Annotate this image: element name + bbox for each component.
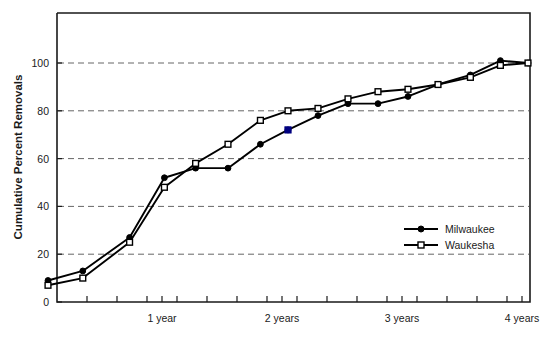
data-point[interactable] (525, 60, 531, 66)
y-tick-label: 0 (43, 296, 49, 308)
line-chart: 020406080100 1 year2 years3 years4 years… (0, 0, 554, 341)
x-tick-label: 2 years (265, 312, 299, 324)
data-point[interactable] (127, 239, 133, 245)
data-point[interactable] (498, 62, 504, 68)
data-point[interactable] (375, 89, 381, 95)
data-point[interactable] (80, 268, 86, 274)
legend-label: Waukesha (445, 239, 494, 251)
legend-marker (418, 242, 424, 248)
x-tick-label: 1 year (147, 312, 177, 324)
data-point[interactable] (405, 86, 411, 92)
data-point[interactable] (225, 165, 231, 171)
data-point[interactable] (162, 184, 168, 190)
data-point[interactable] (375, 101, 381, 107)
y-tick-label: 60 (37, 153, 49, 165)
legend-label: Milwaukee (445, 223, 495, 235)
data-point[interactable] (435, 82, 441, 88)
data-point[interactable] (80, 275, 86, 281)
data-point[interactable] (315, 113, 321, 119)
y-axis-title: Cumulative Percent Removals (12, 75, 24, 240)
data-point[interactable] (285, 108, 291, 114)
x-tick-label: 3 years (385, 312, 419, 324)
data-point[interactable] (45, 282, 51, 288)
data-point[interactable] (258, 141, 264, 147)
y-tick-label: 20 (37, 248, 49, 260)
y-tick-label: 80 (37, 105, 49, 117)
data-point[interactable] (315, 106, 321, 112)
data-point[interactable] (225, 141, 231, 147)
legend-marker (418, 226, 424, 232)
y-tick-label: 40 (37, 200, 49, 212)
data-point[interactable] (258, 117, 264, 123)
x-tick-label: 4 years (505, 312, 539, 324)
highlighted-data-point[interactable] (285, 127, 291, 133)
chart-figure: 020406080100 1 year2 years3 years4 years… (0, 0, 554, 341)
x-axis-tick-labels: 1 year2 years3 years4 years (147, 312, 539, 324)
plot-background (57, 13, 530, 302)
data-point[interactable] (405, 94, 411, 100)
data-point[interactable] (162, 175, 168, 181)
y-axis-tick-labels: 020406080100 (31, 57, 49, 308)
data-point[interactable] (345, 96, 351, 102)
data-point[interactable] (193, 160, 199, 166)
data-point[interactable] (468, 74, 474, 80)
highlighted-point-marker[interactable] (285, 127, 291, 133)
y-tick-label: 100 (31, 57, 49, 69)
